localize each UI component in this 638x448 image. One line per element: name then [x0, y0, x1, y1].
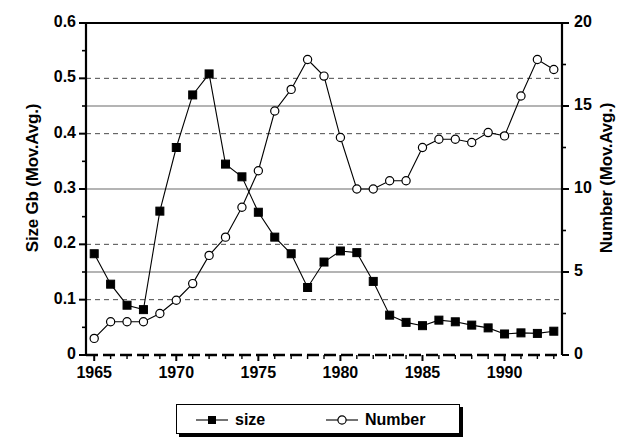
- y-axis-right-tick-label: 20: [574, 13, 614, 31]
- x-axis-tick-label: 1980: [300, 364, 380, 382]
- data-point-size: [451, 318, 459, 326]
- data-point-size: [304, 283, 312, 291]
- data-point-size: [468, 321, 476, 329]
- data-point-size: [205, 70, 213, 78]
- data-point-size: [533, 329, 541, 337]
- legend-item-number[interactable]: Number: [325, 405, 425, 435]
- data-point-size: [336, 247, 344, 255]
- data-point-number: [205, 251, 213, 259]
- data-point-number: [484, 128, 492, 136]
- data-point-number: [221, 233, 229, 241]
- y-axis-right-tick-label: 0: [574, 345, 614, 363]
- data-point-number: [418, 143, 426, 151]
- legend-filled-square-icon: [195, 413, 229, 427]
- data-point-number: [402, 177, 410, 185]
- data-point-number: [238, 203, 246, 211]
- x-axis-tick-label: 1990: [465, 364, 545, 382]
- series-line-size: [94, 74, 554, 334]
- data-point-size: [90, 250, 98, 258]
- data-point-size: [254, 208, 262, 216]
- data-point-size: [222, 160, 230, 168]
- data-point-size: [353, 249, 361, 257]
- data-point-number: [123, 318, 131, 326]
- y-axis-left-tick-label: 0.4: [14, 124, 76, 142]
- data-point-size: [287, 250, 295, 258]
- data-point-number: [468, 138, 476, 146]
- data-point-size: [435, 316, 443, 324]
- data-point-number: [172, 296, 180, 304]
- data-point-size: [271, 233, 279, 241]
- data-point-size: [517, 329, 525, 337]
- legend-open-circle-icon: [325, 413, 359, 427]
- data-point-size: [189, 91, 197, 99]
- data-point-size: [402, 318, 410, 326]
- y-axis-right-tick-label: 5: [574, 262, 614, 280]
- data-point-size: [139, 306, 147, 314]
- data-point-number: [517, 92, 525, 100]
- y-axis-right-tick-label: 15: [574, 96, 614, 114]
- data-point-size: [418, 322, 426, 330]
- y-axis-left-tick-label: 0: [14, 345, 76, 363]
- data-point-number: [90, 334, 98, 342]
- data-point-number: [139, 318, 147, 326]
- x-axis-tick-label: 1975: [218, 364, 298, 382]
- data-point-number: [500, 132, 508, 140]
- data-point-size: [550, 327, 558, 335]
- data-point-size: [369, 277, 377, 285]
- legend-item-size[interactable]: size: [195, 405, 265, 435]
- y-axis-left-tick-label: 0.6: [14, 13, 76, 31]
- y-axis-left-tick-label: 0.5: [14, 68, 76, 86]
- data-point-size: [107, 280, 115, 288]
- data-point-size: [320, 258, 328, 266]
- data-point-number: [254, 167, 262, 175]
- x-axis-tick-label: 1970: [136, 364, 216, 382]
- data-point-number: [353, 185, 361, 193]
- data-point-number: [451, 135, 459, 143]
- y-axis-left-title: Size Gb (Mov.Avg.): [23, 53, 43, 303]
- data-point-number: [386, 177, 394, 185]
- data-point-size: [156, 207, 164, 215]
- x-axis-tick-label: 1965: [54, 364, 134, 382]
- y-axis-left-tick-label: 0.2: [14, 234, 76, 252]
- data-point-number: [107, 318, 115, 326]
- data-point-number: [533, 55, 541, 63]
- data-point-size: [386, 311, 394, 319]
- y-axis-left-tick-label: 0.1: [14, 290, 76, 308]
- data-point-size: [238, 173, 246, 181]
- chart-container: Size Gb (Mov.Avg.) Number (Mov.Avg.) 00.…: [0, 0, 638, 448]
- data-point-number: [271, 107, 279, 115]
- y-axis-left-tick-label: 0.3: [14, 179, 76, 197]
- legend-label: size: [235, 411, 265, 429]
- data-point-number: [336, 133, 344, 141]
- data-point-number: [156, 309, 164, 317]
- data-point-number: [550, 65, 558, 73]
- legend-label: Number: [365, 411, 425, 429]
- data-point-size: [172, 144, 180, 152]
- chart-legend: sizeNumber: [176, 404, 460, 434]
- data-point-size: [484, 324, 492, 332]
- data-point-number: [320, 72, 328, 80]
- data-point-number: [287, 85, 295, 93]
- x-axis-tick-label: 1985: [382, 364, 462, 382]
- data-point-number: [303, 55, 311, 63]
- data-point-number: [189, 280, 197, 288]
- data-point-size: [501, 330, 509, 338]
- data-point-number: [369, 185, 377, 193]
- data-point-number: [435, 135, 443, 143]
- y-axis-right-tick-label: 10: [574, 179, 614, 197]
- data-point-size: [123, 301, 131, 309]
